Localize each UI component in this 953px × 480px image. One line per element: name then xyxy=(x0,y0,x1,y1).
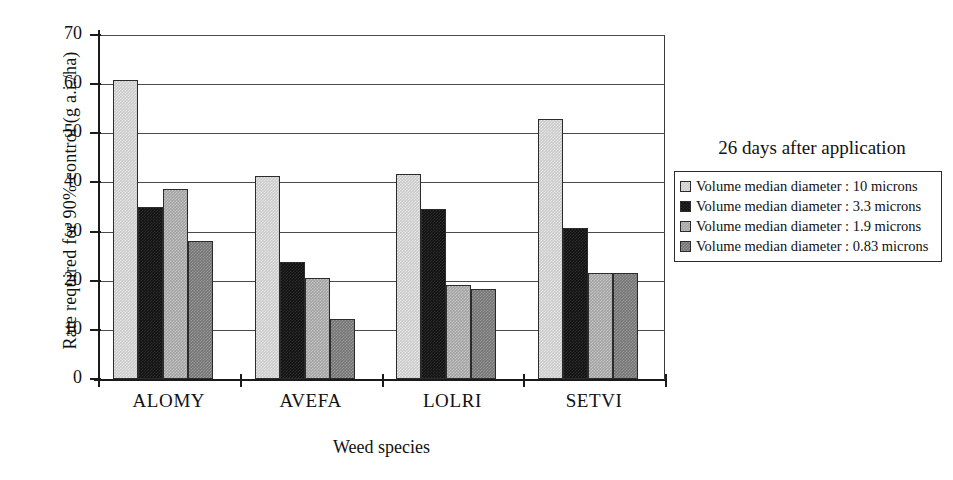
legend-box: Volume median diameter : 10 micronsVolum… xyxy=(674,171,942,262)
legend-swatch-icon-4 xyxy=(680,241,691,252)
legend-row-4[interactable]: Volume median diameter : 0.83 microns xyxy=(680,236,936,256)
bar-lolri-series-3 xyxy=(446,285,471,379)
legend-swatch-icon-2 xyxy=(680,201,691,212)
legend-swatch-icon-3 xyxy=(680,221,691,232)
x-category-label-alomy: ALOMY xyxy=(89,390,249,412)
legend-title: 26 days after application xyxy=(672,137,952,159)
legend-swatch-icon-1 xyxy=(680,181,691,192)
bar-setvi-series-2 xyxy=(563,228,588,379)
bar-setvi-series-3 xyxy=(588,273,613,379)
bar-alomy-series-3 xyxy=(163,189,188,379)
x-category-label-lolri: LOLRI xyxy=(372,390,532,412)
bar-alomy-series-4 xyxy=(188,241,213,379)
bar-setvi-series-4 xyxy=(613,273,638,379)
legend-row-3[interactable]: Volume median diameter : 1.9 microns xyxy=(680,216,936,236)
bar-lolri-series-2 xyxy=(421,209,446,379)
legend-row-2[interactable]: Volume median diameter : 3.3 microns xyxy=(680,196,936,216)
bar-avefa-series-3 xyxy=(305,278,330,379)
bar-alomy-series-2 xyxy=(138,207,163,379)
bar-avefa-series-1 xyxy=(255,176,280,379)
x-category-label-avefa: AVEFA xyxy=(231,390,391,412)
legend-label-4: Volume median diameter : 0.83 microns xyxy=(696,239,929,254)
legend-row-1[interactable]: Volume median diameter : 10 microns xyxy=(680,176,936,196)
legend-label-1: Volume median diameter : 10 microns xyxy=(696,179,918,194)
bar-chart-figure: Rate required for 90% control (g a.i./ha… xyxy=(0,0,953,480)
bar-avefa-series-4 xyxy=(330,319,355,379)
x-category-label-setvi: SETVI xyxy=(514,390,674,412)
bar-alomy-series-1 xyxy=(113,80,138,379)
legend-label-2: Volume median diameter : 3.3 microns xyxy=(696,199,921,214)
legend-label-3: Volume median diameter : 1.9 microns xyxy=(696,219,921,234)
bar-lolri-series-1 xyxy=(396,174,421,379)
x-axis-title: Weed species xyxy=(98,437,665,458)
bar-avefa-series-2 xyxy=(280,262,305,379)
bar-setvi-series-1 xyxy=(538,119,563,379)
bar-lolri-series-4 xyxy=(471,289,496,379)
